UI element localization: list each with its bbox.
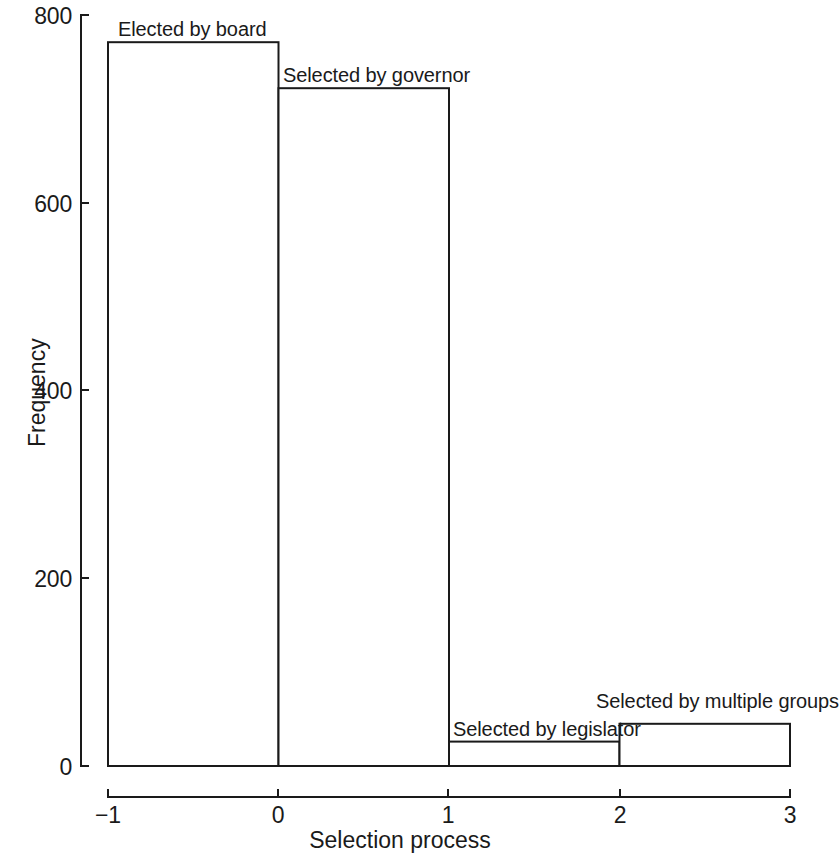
bar-label-selected-by-legislator: Selected by legislator <box>453 718 641 741</box>
x-axis-title: Selection process <box>0 827 800 854</box>
x-tick-label-minus-1: −1 <box>68 802 148 829</box>
y-tick-label-200: 200 <box>8 566 72 593</box>
y-tick-label-600: 600 <box>8 191 72 218</box>
bar-selected-by-governor <box>279 88 450 766</box>
bar-label-selected-by-multiple-groups: Selected by multiple groups <box>596 690 839 713</box>
bar-selected-by-multiple-groups <box>620 724 791 766</box>
y-axis <box>81 15 89 766</box>
x-tick-label-2: 2 <box>580 802 660 829</box>
x-tick-label-3: 3 <box>750 802 830 829</box>
bar-label-selected-by-governor: Selected by governor <box>283 64 470 87</box>
y-axis-title: Frequency <box>24 338 51 447</box>
x-tick-label-0: 0 <box>238 802 318 829</box>
bar-label-elected-by-board: Elected by board <box>118 18 267 41</box>
x-tick-label-1: 1 <box>408 802 488 829</box>
y-tick-label-800: 800 <box>8 3 72 30</box>
x-axis <box>108 789 790 797</box>
bars-group <box>108 42 790 766</box>
bar-selected-by-legislator <box>449 742 620 766</box>
y-tick-label-0: 0 <box>8 754 72 781</box>
bar-elected-by-board <box>108 42 279 766</box>
